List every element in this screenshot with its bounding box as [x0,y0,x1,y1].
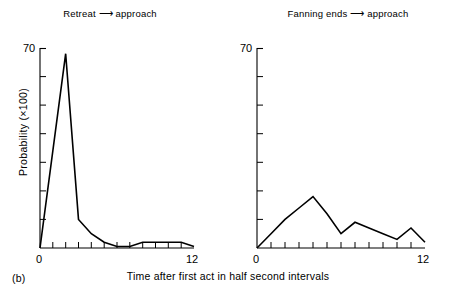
y-max-label-right: 70 [240,42,252,54]
figure-caption-label: (b) [12,272,25,284]
chart-svg-right: 70 0 12 [228,0,456,301]
figure-panel-b: Retreat ⟶ approach [0,0,456,301]
x-min-label-right: 0 [253,253,259,265]
x-ticks-right [271,242,411,248]
data-line-right [257,197,425,248]
x-min-label-left: 0 [36,253,42,265]
y-max-label-left: 70 [23,42,35,54]
y-axis-label: Probability (×100) [17,57,29,207]
chart-panel-retreat-approach: Retreat ⟶ approach [0,0,228,301]
chart-panel-fanning-ends-approach: Fanning ends ⟶ approach [228,0,456,301]
y-ticks-left [40,77,46,220]
x-max-label-left: 12 [186,253,198,265]
data-line-left [40,54,194,248]
chart-svg-left: 70 0 12 [0,0,228,301]
y-ticks-right [257,77,263,220]
x-axis-label: Time after first act in half second inte… [0,270,456,282]
x-max-label-right: 12 [417,253,429,265]
